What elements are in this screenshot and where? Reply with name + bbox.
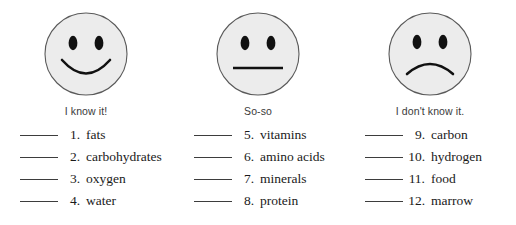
list-item[interactable]: 8. protein (194, 193, 344, 215)
list-item[interactable]: 6. amino acids (194, 149, 344, 171)
rating-column-1: So-so (172, 0, 344, 125)
neutral-face-icon (215, 10, 301, 98)
item-label: hydrogen (425, 149, 482, 165)
item-label: oxygen (80, 171, 126, 187)
item-label: fats (80, 127, 106, 143)
answer-blank[interactable] (20, 179, 58, 180)
answer-blank[interactable] (365, 179, 403, 180)
answer-list-0: 1. fats 2. carbohydrates 3. oxygen 4. wa… (0, 127, 172, 225)
item-label: water (80, 193, 116, 209)
item-number: 12. (403, 193, 425, 209)
rating-caption-1: So-so (244, 105, 272, 117)
rating-caption-2: I don't know it. (396, 105, 464, 117)
answer-blank[interactable] (20, 135, 58, 136)
answer-list-1: 5. vitamins 6. amino acids 7. minerals 8… (172, 127, 344, 225)
list-item[interactable]: 4. water (20, 193, 172, 215)
item-label: minerals (254, 171, 307, 187)
item-number: 5. (232, 127, 254, 143)
frowning-face-icon (387, 10, 473, 98)
item-number: 7. (232, 171, 254, 187)
list-item[interactable]: 12. marrow (365, 193, 516, 215)
item-label: amino acids (254, 149, 325, 165)
list-item[interactable]: 1. fats (20, 127, 172, 149)
item-label: protein (254, 193, 298, 209)
answer-blank[interactable] (365, 201, 403, 202)
answer-list-2: 9. carbon 10. hydrogen 11. food 12. marr… (344, 127, 516, 225)
item-number: 11. (403, 171, 425, 187)
item-number: 10. (403, 149, 425, 165)
item-number: 8. (232, 193, 254, 209)
list-item[interactable]: 2. carbohydrates (20, 149, 172, 171)
item-label: food (425, 171, 456, 187)
item-number: 9. (403, 127, 425, 143)
list-item[interactable]: 11. food (365, 171, 516, 193)
answer-blank[interactable] (194, 201, 232, 202)
item-number: 3. (58, 171, 80, 187)
rating-column-0: I know it! (0, 0, 172, 125)
answer-blank[interactable] (194, 135, 232, 136)
item-number: 1. (58, 127, 80, 143)
item-number: 4. (58, 193, 80, 209)
answer-blank[interactable] (20, 157, 58, 158)
answer-blank[interactable] (365, 157, 403, 158)
smiling-face-icon (43, 10, 129, 98)
item-label: carbon (425, 127, 468, 143)
item-label: marrow (425, 193, 473, 209)
list-item[interactable]: 3. oxygen (20, 171, 172, 193)
answer-lists-row: 1. fats 2. carbohydrates 3. oxygen 4. wa… (0, 127, 516, 225)
face-scale-row: I know it! So-so I don't know it. (0, 0, 516, 125)
item-number: 2. (58, 149, 80, 165)
list-item[interactable]: 7. minerals (194, 171, 344, 193)
answer-blank[interactable] (365, 135, 403, 136)
item-label: carbohydrates (80, 149, 162, 165)
answer-blank[interactable] (194, 179, 232, 180)
rating-column-2: I don't know it. (344, 0, 516, 125)
item-number: 6. (232, 149, 254, 165)
answer-blank[interactable] (20, 201, 58, 202)
rating-caption-0: I know it! (65, 105, 107, 117)
list-item[interactable]: 10. hydrogen (365, 149, 516, 171)
item-label: vitamins (254, 127, 307, 143)
list-item[interactable]: 5. vitamins (194, 127, 344, 149)
answer-blank[interactable] (194, 157, 232, 158)
list-item[interactable]: 9. carbon (365, 127, 516, 149)
